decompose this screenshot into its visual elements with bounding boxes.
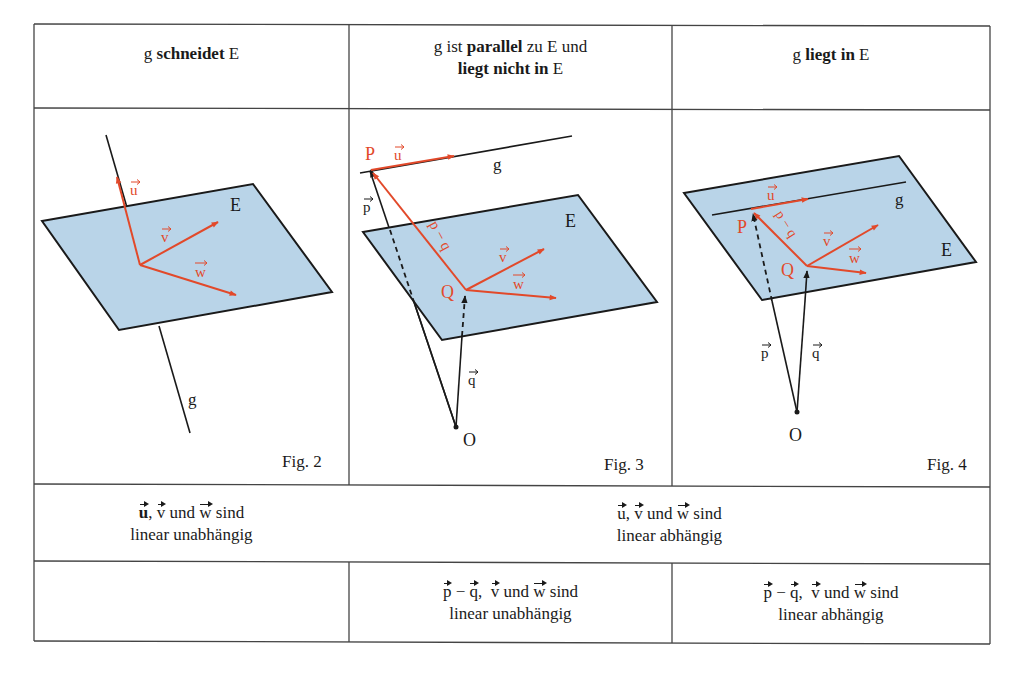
text: sind <box>866 583 899 602</box>
cell-row3-col23: u, v und w sind linear abhängig <box>349 486 990 563</box>
text: sind <box>546 582 579 601</box>
vector-v-symbol: v <box>157 502 166 524</box>
cell-row4-col1-empty <box>34 562 349 641</box>
svg-text:q: q <box>468 372 476 388</box>
svg-text:E: E <box>941 240 952 260</box>
vector-w-symbol: w <box>199 502 211 524</box>
svg-text:p: p <box>761 345 769 361</box>
svg-text:P: P <box>365 144 375 164</box>
svg-text:g: g <box>895 190 904 209</box>
plane-E <box>42 184 332 330</box>
cell-row3-col1: u, v und w sind linear unabhängig <box>34 485 349 562</box>
vector-w-symbol: w <box>677 503 689 525</box>
svg-text:w: w <box>195 264 206 280</box>
vector-p-symbol: p <box>763 582 772 604</box>
figure-3: P u g E p p − q Q v w q O <box>360 136 657 450</box>
statement-text: linear abhängig <box>778 604 883 626</box>
vector-w-symbol: w <box>533 581 545 603</box>
svg-text:Q: Q <box>441 282 454 302</box>
text: und <box>165 503 199 522</box>
svg-text:w: w <box>513 276 524 292</box>
vector-q-symbol: q <box>790 582 799 604</box>
svg-text:u: u <box>394 147 402 163</box>
vector-u-symbol: u <box>617 503 626 525</box>
svg-text:E: E <box>565 211 576 231</box>
statement-text: linear abhängig <box>617 525 722 547</box>
svg-text:g: g <box>188 390 197 409</box>
svg-text:g: g <box>493 155 502 174</box>
svg-text:q: q <box>812 345 820 361</box>
figure-caption: Fig. 3 <box>604 455 644 475</box>
svg-text:v: v <box>823 233 831 249</box>
vector-w-symbol: w <box>854 582 866 604</box>
svg-text:E: E <box>230 195 241 215</box>
vector-v-symbol: v <box>491 581 500 603</box>
statement-text: linear unabhängig <box>130 524 252 546</box>
svg-text:v: v <box>499 249 507 265</box>
figure-2: E g u v w <box>42 135 332 433</box>
vector-u <box>371 156 454 170</box>
figure-4: P u g E p − q Q v w p q O <box>684 156 976 445</box>
figure-caption: Fig. 4 <box>927 455 967 475</box>
svg-text:Q: Q <box>781 260 794 280</box>
vector-v-symbol: v <box>811 582 820 604</box>
vector-u-symbol: u <box>139 502 148 524</box>
svg-text:u: u <box>767 187 775 203</box>
svg-text:p: p <box>363 199 371 215</box>
vector-p-symbol: p <box>443 581 452 603</box>
text: − <box>451 582 469 601</box>
svg-text:w: w <box>849 250 860 266</box>
text: sind <box>689 504 722 523</box>
text: sind <box>212 503 245 522</box>
statement-text: linear unabhängig <box>449 603 571 625</box>
cell-row4-col2: p − q, v und w sind linear unabhängig <box>349 563 672 642</box>
text: und <box>499 582 533 601</box>
text: − <box>772 583 790 602</box>
vector-q-symbol: q <box>469 581 478 603</box>
cell-row4-col3: p − q, v und w sind linear abhängig <box>672 564 990 643</box>
vector-v-symbol: v <box>634 503 643 525</box>
svg-text:P: P <box>737 217 747 237</box>
plane-E <box>684 156 976 300</box>
text: , <box>798 583 811 602</box>
text: und <box>820 583 854 602</box>
text: , <box>626 504 635 523</box>
svg-text:O: O <box>463 430 476 450</box>
svg-text:O: O <box>789 425 802 445</box>
svg-text:v: v <box>161 229 169 245</box>
svg-text:u: u <box>130 182 138 198</box>
text: und <box>643 504 677 523</box>
text: , <box>478 582 491 601</box>
text: , <box>148 503 157 522</box>
figure-caption: Fig. 2 <box>282 452 322 472</box>
